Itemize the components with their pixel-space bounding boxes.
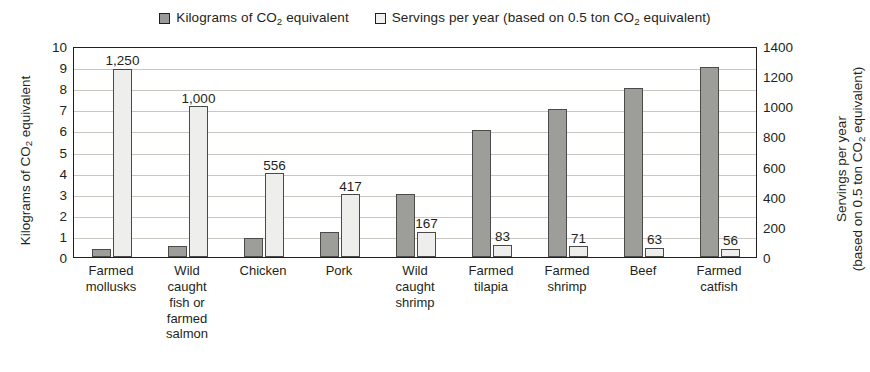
x-axis-label-line: Wild [174, 263, 199, 278]
y-tick-left: 8 [41, 83, 67, 97]
bar-kilograms[interactable] [624, 88, 643, 257]
bar-kilograms[interactable] [700, 67, 719, 257]
x-axis-label: Farmedcatfish [681, 263, 757, 295]
x-axis-label-line: catfish [700, 279, 738, 294]
bar-servings[interactable]: 556 [265, 173, 284, 257]
y-tick-right: 1000 [763, 101, 803, 115]
x-axis-label-line: Farmed [697, 263, 742, 278]
y-tick-right: 600 [763, 162, 803, 176]
y-tick-left: 10 [41, 41, 67, 55]
bar-kilograms[interactable] [396, 194, 415, 257]
x-axis-label: Wildcaughtshrimp [377, 263, 453, 311]
y-tick-left: 2 [41, 210, 67, 224]
bar-value-label: 417 [339, 180, 362, 194]
bar-value-label: 556 [263, 159, 286, 173]
bar-group: 1,000 [150, 48, 226, 257]
y-tick-right: 0 [763, 252, 803, 266]
bar-kilograms[interactable] [168, 246, 187, 257]
bar-servings[interactable]: 1,250 [113, 69, 132, 257]
chart-legend: Kilograms of CO2 equivalent Servings per… [0, 11, 870, 26]
x-axis-label-line: Farmed [89, 263, 134, 278]
bar-servings[interactable]: 167 [417, 232, 436, 257]
x-axis-label-line: Beef [630, 263, 657, 278]
x-axis-label-line: Wild [402, 263, 427, 278]
x-axis-label-line: fish or [169, 295, 204, 310]
bar-value-label: 167 [415, 217, 438, 231]
legend-label-kilograms: Kilograms of CO2 equivalent [176, 11, 348, 26]
bar-kilograms[interactable] [320, 232, 339, 257]
x-axis-label-line: tilapia [474, 279, 508, 294]
y-tick-left: 4 [41, 168, 67, 182]
x-axis-label-line: Pork [326, 263, 353, 278]
bar-group: 71 [530, 48, 606, 257]
chart-container: Kilograms of CO2 equivalent Servings per… [0, 0, 870, 372]
bar-kilograms[interactable] [92, 249, 111, 257]
y-tick-left: 7 [41, 104, 67, 118]
bar-value-label: 1,250 [106, 54, 140, 68]
y-tick-left: 5 [41, 147, 67, 161]
legend-label-servings: Servings per year (based on 0.5 ton CO2 … [392, 11, 711, 26]
x-axis-label: Farmedshrimp [529, 263, 605, 295]
y-axis-right-ticks: 1400120010008006004002000 [763, 47, 807, 258]
bar-servings[interactable]: 1,000 [189, 106, 208, 257]
x-axis-label: Chicken [225, 263, 301, 279]
x-axis-label: Pork [301, 263, 377, 279]
bar-group: 1,250 [74, 48, 150, 257]
bar-kilograms[interactable] [244, 238, 263, 257]
legend-swatch-light-icon [375, 13, 386, 24]
y-tick-right: 800 [763, 131, 803, 145]
y-tick-left: 0 [41, 252, 67, 266]
plot-area: 1,2501,00055641716783716356 [73, 47, 757, 258]
bar-group: 83 [454, 48, 530, 257]
bar-group: 167 [378, 48, 454, 257]
x-axis-label-line: caught [395, 279, 434, 294]
bar-servings[interactable]: 83 [493, 245, 512, 258]
x-axis-label-line: Chicken [240, 263, 287, 278]
y-axis-left-title: Kilograms of CO2 equivalent [18, 50, 35, 270]
y-tick-right: 1200 [763, 71, 803, 85]
bar-group: 56 [682, 48, 758, 257]
bar-servings[interactable]: 56 [721, 249, 740, 257]
bar-group: 63 [606, 48, 682, 257]
x-axis-label-line: salmon [166, 326, 208, 341]
bar-value-label: 63 [647, 233, 662, 247]
x-axis-label: Farmedtilapia [453, 263, 529, 295]
y-axis-right-title: Servings per year (based on 0.5 ton CO2 … [834, 54, 868, 284]
bar-servings[interactable]: 417 [341, 194, 360, 257]
bar-value-label: 56 [723, 234, 738, 248]
x-axis-label-line: Farmed [469, 263, 514, 278]
y-tick-right: 200 [763, 222, 803, 236]
bar-kilograms[interactable] [548, 109, 567, 257]
x-axis-label-line: caught [167, 279, 206, 294]
x-axis-label-line: shrimp [547, 279, 586, 294]
x-axis-label-line: Farmed [545, 263, 590, 278]
bar-kilograms[interactable] [472, 130, 491, 257]
x-axis-label-line: farmed [167, 311, 207, 326]
bar-servings[interactable]: 71 [569, 246, 588, 257]
x-axis-label: Beef [605, 263, 681, 279]
bar-value-label: 71 [571, 232, 586, 246]
y-axis-left-ticks: 109876543210 [39, 47, 67, 258]
bar-group: 417 [302, 48, 378, 257]
bar-servings[interactable]: 63 [645, 248, 664, 257]
x-axis-category-labels: FarmedmollusksWildcaughtfish orfarmedsal… [73, 263, 757, 368]
y-tick-right: 400 [763, 192, 803, 206]
x-axis-label-line: mollusks [86, 279, 137, 294]
y-tick-left: 6 [41, 125, 67, 139]
legend-item-servings: Servings per year (based on 0.5 ton CO2 … [375, 11, 711, 26]
bar-series-group: 1,2501,00055641716783716356 [74, 48, 756, 257]
legend-item-kilograms: Kilograms of CO2 equivalent [159, 11, 348, 26]
y-tick-left: 3 [41, 189, 67, 203]
x-axis-label: Wildcaughtfish orfarmedsalmon [149, 263, 225, 342]
bar-group: 556 [226, 48, 302, 257]
legend-swatch-dark-icon [159, 13, 170, 24]
x-axis-label-line: shrimp [395, 295, 434, 310]
bar-value-label: 1,000 [182, 92, 216, 106]
y-tick-left: 1 [41, 231, 67, 245]
y-tick-right: 1400 [763, 41, 803, 55]
bar-value-label: 83 [495, 230, 510, 244]
y-tick-left: 9 [41, 62, 67, 76]
x-axis-label: Farmedmollusks [73, 263, 149, 295]
